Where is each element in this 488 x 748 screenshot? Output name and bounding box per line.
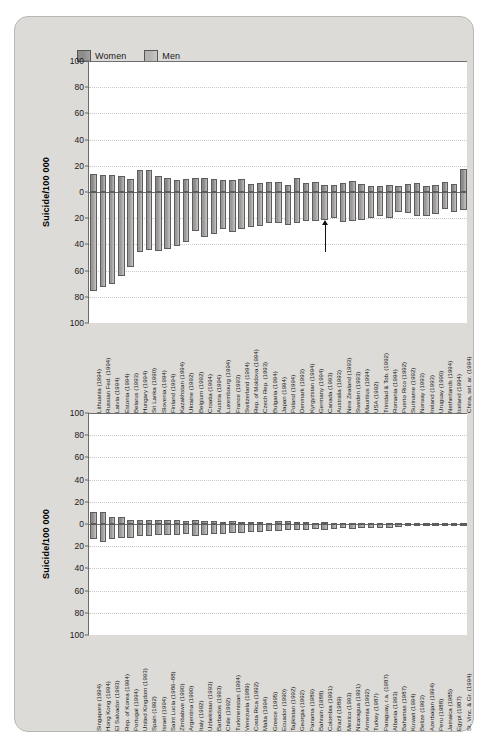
bar-group <box>248 61 254 323</box>
bar-group <box>414 413 420 635</box>
y-axis-tick-mark <box>85 590 89 591</box>
bar-group <box>358 61 364 323</box>
bar-women <box>451 184 457 192</box>
bar-women <box>460 169 466 192</box>
bar-group <box>340 61 346 323</box>
bar-group <box>442 413 448 635</box>
bar-men <box>275 192 281 223</box>
bar-men <box>155 524 161 535</box>
category-label: Zimbabwe (1990) <box>178 684 185 731</box>
category-label: Turkey (1987) <box>372 693 379 731</box>
annotation-arrow-head-icon <box>322 220 328 225</box>
bar-men <box>340 524 346 528</box>
bar-women <box>118 517 124 524</box>
bar-women <box>183 179 189 192</box>
bar-women <box>414 183 420 192</box>
bar-men <box>386 524 392 528</box>
y-axis-tick-mark <box>85 323 89 324</box>
y-axis-tick-mark <box>85 501 89 502</box>
bar-group <box>238 61 244 323</box>
category-label: Panama (1989) <box>308 689 315 731</box>
bar-women <box>321 185 327 192</box>
category-label: Spain (1992) <box>150 696 157 731</box>
bar-group <box>377 61 383 323</box>
bar-men <box>257 192 263 226</box>
bar-men <box>321 192 327 220</box>
bar-men <box>192 192 198 231</box>
bar-group <box>137 61 143 323</box>
bar-men <box>248 524 254 532</box>
bar-group <box>238 413 244 635</box>
y-axis-tick-mark <box>85 524 89 525</box>
bar-group <box>211 413 217 635</box>
bar-women <box>248 184 254 192</box>
category-label: St. Vinc. & Gr. (1994) <box>465 674 472 731</box>
bar-men <box>423 524 429 526</box>
category-label: Turkmenistan (1994) <box>234 675 241 731</box>
category-label: Kuwait (1994) <box>409 693 416 731</box>
bar-men <box>248 192 254 227</box>
bar-group <box>183 61 189 323</box>
bar-women <box>285 185 291 192</box>
y-axis-tick-mark <box>85 479 89 480</box>
bar-group <box>442 61 448 323</box>
bar-group <box>377 413 383 635</box>
bar-group <box>321 61 327 323</box>
bar-group <box>432 413 438 635</box>
bar-group <box>248 413 254 635</box>
bar-men <box>460 524 466 526</box>
bar-women <box>164 178 170 192</box>
bar-men <box>201 192 207 237</box>
panel-top-y-axis-title: Suicide/100 000 <box>41 157 51 227</box>
bar-men <box>303 192 309 221</box>
bar-group <box>257 61 263 323</box>
bar-group <box>155 413 161 635</box>
bar-men <box>220 524 226 534</box>
bar-men <box>395 524 401 527</box>
bar-men <box>294 192 300 223</box>
bar-men <box>211 192 217 234</box>
bar-men <box>395 192 401 212</box>
bar-group <box>285 61 291 323</box>
bar-men <box>100 192 106 287</box>
bar-men <box>137 192 143 252</box>
category-label: Chile (1992) <box>224 698 231 731</box>
y-axis-tick-mark <box>85 87 89 88</box>
bar-men <box>201 524 207 535</box>
bar-women <box>192 178 198 192</box>
bar-men <box>164 524 170 535</box>
bar-men <box>100 524 106 542</box>
category-label: Colombia (1991) <box>326 686 333 731</box>
category-label: Argentina (1990) <box>187 686 194 731</box>
bar-women <box>118 176 124 192</box>
bar-men <box>183 192 189 242</box>
bar-group <box>285 413 291 635</box>
figure-card: Women Men Suicide/100 000 10080604020020… <box>14 16 474 732</box>
y-axis-tick-mark <box>85 61 89 62</box>
category-label: Singapore (1994) <box>95 684 102 731</box>
bar-women <box>275 182 281 192</box>
bar-group <box>386 61 392 323</box>
bar-men <box>377 192 383 216</box>
panel-top-bars <box>89 61 467 323</box>
category-label: Bahamas (1987) <box>400 686 407 731</box>
bar-men <box>90 192 96 291</box>
bar-group <box>220 61 226 323</box>
bar-group <box>405 413 411 635</box>
bar-women <box>90 174 96 192</box>
bar-women <box>90 512 96 524</box>
y-axis-tick-mark <box>85 457 89 458</box>
category-label: Georgia (1992) <box>298 690 305 731</box>
bar-group <box>312 413 318 635</box>
bar-group <box>155 61 161 323</box>
bar-men <box>109 192 115 284</box>
bar-men <box>137 524 143 536</box>
bar-men <box>368 192 374 218</box>
bar-men <box>229 524 235 533</box>
y-axis-tick-mark <box>85 546 89 547</box>
bar-men <box>220 192 226 229</box>
category-label: Nicaragua (1991) <box>354 684 361 731</box>
bar-group <box>275 413 281 635</box>
bar-group <box>90 61 96 323</box>
bar-group <box>229 413 235 635</box>
